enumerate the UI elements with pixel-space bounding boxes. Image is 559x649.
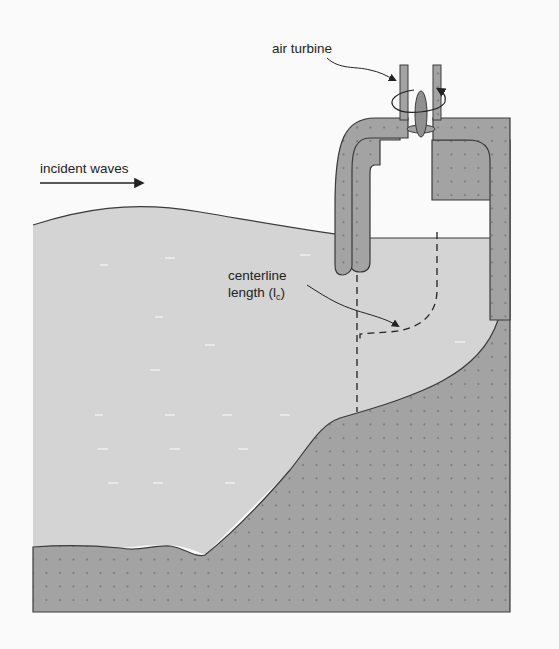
centerline-label-prefix: length (l xyxy=(228,285,276,300)
turbine-blade-vertical xyxy=(415,91,427,137)
air-turbine-label: air turbine xyxy=(272,41,332,57)
diagram-graphic xyxy=(0,0,559,649)
duct-wall-right xyxy=(433,65,441,120)
incident-waves-label: incident waves xyxy=(40,161,129,177)
centerline-label-line2: length (lc) xyxy=(228,285,285,305)
centerline-label-suffix: ) xyxy=(281,285,286,300)
owc-diagram: air turbine incident waves centerline le… xyxy=(0,0,559,649)
centerline-label-line1: centerline xyxy=(228,268,287,284)
air-turbine-leader xyxy=(327,58,395,80)
